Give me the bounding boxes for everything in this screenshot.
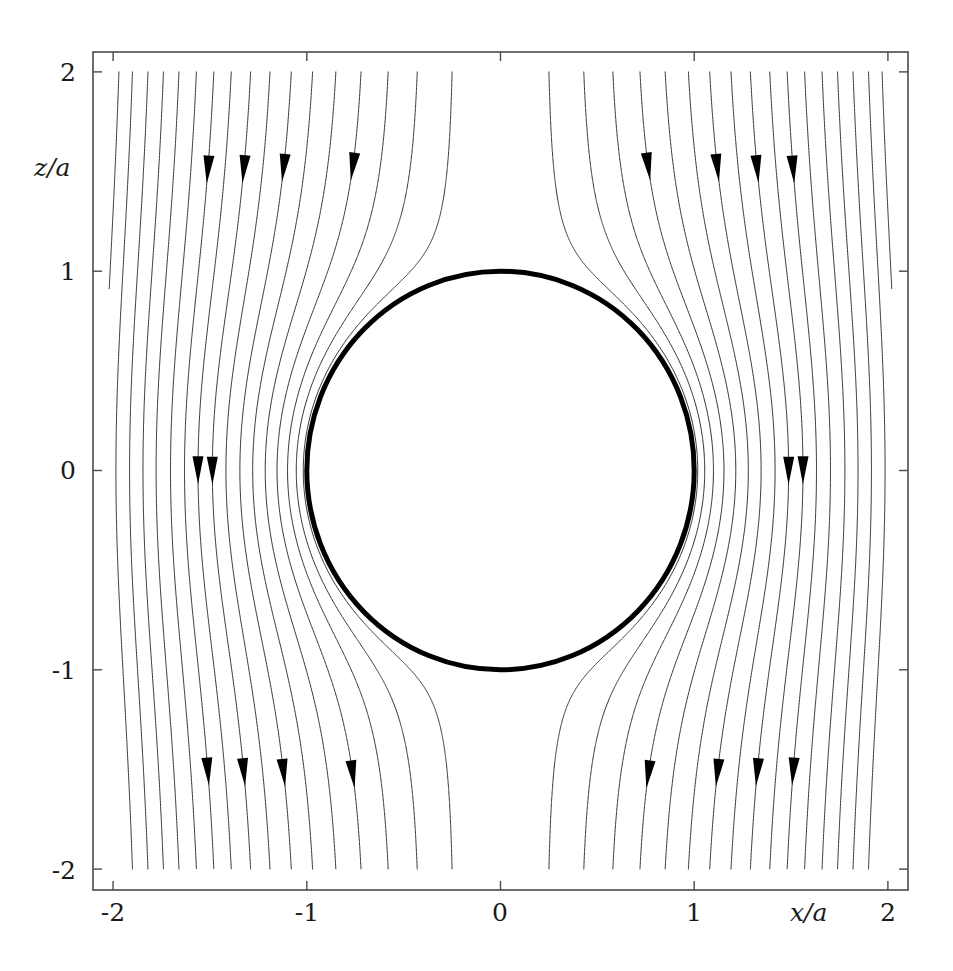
z-tick-label-2: 0: [60, 458, 76, 483]
x-tick-label-2: 0: [492, 900, 508, 925]
plot-frame: [93, 52, 908, 890]
x-tick-label-4: 2: [880, 900, 896, 925]
x-tick-label-0: -2: [101, 900, 125, 925]
streamlines: [109, 72, 892, 869]
x-axis-title: x/a: [790, 900, 827, 925]
streamline-figure: -2 -1 0 1 2 x/a 2 1 0 -1 -2 z/a: [0, 0, 953, 971]
z-axis-title: z/a: [34, 155, 71, 180]
z-tick-label-1: 1: [60, 259, 76, 284]
x-tick-label-1: -1: [295, 900, 319, 925]
sphere-outline: [307, 271, 694, 670]
z-tick-label-3: -1: [52, 658, 76, 683]
z-tick-label-0: 2: [60, 60, 76, 85]
axis-ticks: [93, 52, 908, 890]
flow-direction-arrows: [192, 152, 808, 789]
x-tick-label-3: 1: [686, 900, 702, 925]
z-tick-label-4: -2: [52, 858, 76, 883]
plot-canvas: [0, 0, 953, 971]
